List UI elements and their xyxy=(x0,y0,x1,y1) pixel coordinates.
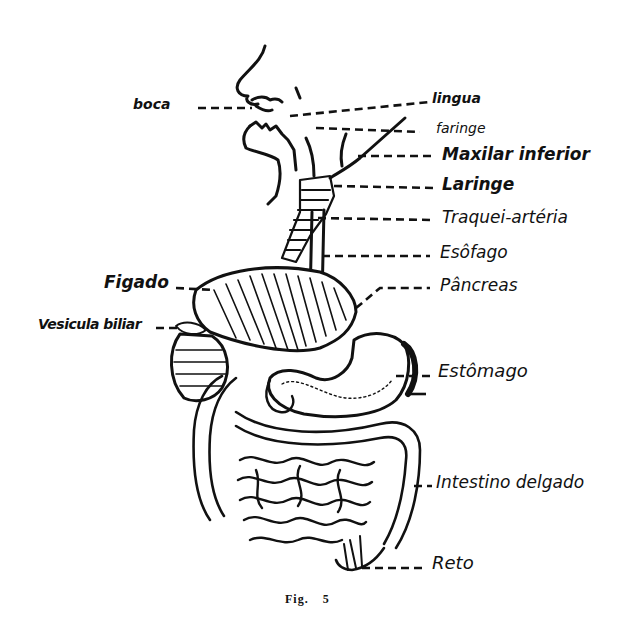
label-estomago: Estômago xyxy=(438,360,528,381)
label-vesicula-biliar: Vesicula biliar xyxy=(38,316,141,332)
liver xyxy=(194,268,356,351)
head-profile xyxy=(237,46,405,204)
caption-prefix: Fig. xyxy=(285,592,309,606)
left-mass xyxy=(171,334,227,401)
label-reto: Reto xyxy=(432,552,474,573)
label-laringe: Laringe xyxy=(442,174,514,194)
label-faringe: faringe xyxy=(436,120,486,136)
rectum xyxy=(344,536,362,570)
label-intestino-delgado: Intestino delgado xyxy=(436,472,584,492)
small-intestine xyxy=(238,457,374,542)
caption-number: 5 xyxy=(323,592,330,606)
label-esofago: Esôfago xyxy=(440,242,508,262)
label-figado: Figado xyxy=(104,272,169,292)
digestive-system-illustration xyxy=(0,0,636,622)
label-traqueia: Traquei-artéria xyxy=(442,207,568,227)
figure-caption: Fig.5 xyxy=(285,592,330,607)
label-maxilar-inferior: Maxilar inferior xyxy=(442,144,590,164)
label-pancreas: Pâncreas xyxy=(440,275,518,295)
label-boca: boca xyxy=(133,96,170,112)
label-lingua: lingua xyxy=(432,90,481,106)
